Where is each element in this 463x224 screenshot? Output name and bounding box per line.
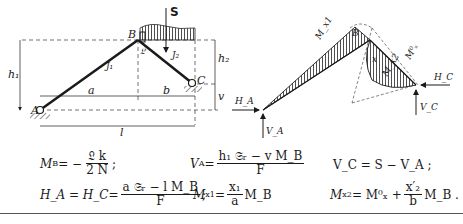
distributed-load	[140, 24, 195, 40]
support-c	[189, 80, 196, 87]
member-ab	[40, 40, 138, 110]
node-b-label-right: B	[351, 28, 359, 38]
height2-label: h₂	[218, 52, 230, 65]
span-l-label: l	[120, 126, 124, 139]
reaction-va-label: V_A	[266, 126, 284, 137]
moment-x1-label: M_x1	[313, 15, 335, 43]
reaction-ha-label: H_A	[234, 96, 254, 107]
bottom-rule	[0, 213, 463, 214]
offset-v-label: v	[218, 90, 225, 103]
height1-label: h₁	[8, 68, 20, 81]
frame-diagram: S h₁ h₂ v a b l B A C J₁ J₂ 𝔏	[8, 5, 230, 139]
node-c-label: C	[197, 74, 206, 87]
equation-mx2: Mx2 = M⁰ₓ + x′₂b M_B .	[330, 181, 459, 208]
span-a-label: a	[88, 84, 95, 97]
load-label: S	[170, 5, 179, 19]
reaction-vc-label: V_C	[420, 102, 438, 113]
reaction-hc-label: H_C	[433, 72, 453, 83]
moment-zero-label: M⁰ₓ	[403, 41, 421, 61]
equation-ha: H_A = H_C = a 𝔖ᵣ − l M_BF ;	[40, 181, 206, 208]
equation-mb: MB = − 𝔏 k2 N ;	[40, 150, 116, 177]
member2-label: J₂	[170, 50, 180, 60]
section-x-label: x	[372, 54, 377, 64]
equation-vc: V_C = S − V_A ;	[333, 158, 432, 172]
member-bc	[138, 40, 192, 83]
span-b-label: b	[163, 84, 170, 97]
equation-va: VA = h₁ 𝔖ᵣ − v M_BF	[190, 150, 306, 177]
equation-mx1: Mx1 = x₁a M_B	[193, 181, 272, 208]
member1-label: J₁	[104, 61, 113, 71]
node-b-label: B	[127, 28, 136, 41]
node-a-label: A	[30, 104, 39, 117]
moment-diagram: H_A V_A H_C V_C B x M_x1 M_x2 M⁰ₓ	[232, 15, 453, 138]
